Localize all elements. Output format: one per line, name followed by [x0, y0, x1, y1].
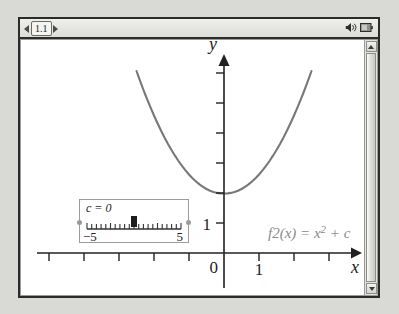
slider-max-label: 5 [177, 229, 184, 243]
status-bar: 1.1 [20, 19, 378, 39]
scrollbar-thumb[interactable] [366, 53, 376, 282]
slider-label: c = 0 [86, 201, 111, 216]
scroll-up-button[interactable] [366, 41, 377, 52]
slider-handle[interactable] [131, 216, 137, 227]
svg-text:f2(x) = x2 + c: f2(x) = x2 + c [268, 223, 351, 242]
scroll-down-arrow-icon [369, 287, 375, 291]
wireless-signal-icon [345, 22, 357, 33]
calculator-screen: 1.1 [0, 0, 399, 314]
x-axis [37, 248, 362, 262]
battery-icon [360, 22, 373, 33]
page-indicator[interactable]: 1.1 [31, 21, 52, 36]
origin-label: 0 [210, 258, 219, 277]
function-label-tail: + c [326, 225, 351, 241]
graph-work-area[interactable]: y x 0 1 1 f2(x) = x2 + c c = 0 [20, 39, 378, 296]
calculator-window: 1.1 [18, 17, 380, 298]
y-tick-label-1: 1 [203, 215, 212, 234]
slider-min-label: −5 [83, 229, 97, 243]
graph-canvas[interactable]: y x 0 1 1 f2(x) = x2 + c [21, 40, 367, 296]
vertical-scrollbar[interactable] [364, 40, 377, 295]
function-label-main: f2(x) = x [268, 225, 321, 242]
triangle-left-icon[interactable] [24, 24, 30, 34]
slider-widget[interactable]: c = 0 [79, 199, 189, 243]
scroll-down-button[interactable] [366, 283, 377, 294]
function-label[interactable]: f2(x) = x2 + c [268, 223, 351, 242]
scroll-up-arrow-icon [368, 45, 374, 49]
triangle-right-icon[interactable] [53, 24, 59, 34]
x-axis-label: x [350, 257, 359, 277]
slider-range-labels: −5 5 [80, 229, 188, 243]
status-icon-group [345, 22, 373, 33]
x-tick-label-1: 1 [255, 260, 264, 279]
page-navigator[interactable]: 1.1 [24, 21, 59, 36]
y-axis-label: y [207, 40, 217, 54]
y-axis-arrowhead [219, 54, 230, 66]
